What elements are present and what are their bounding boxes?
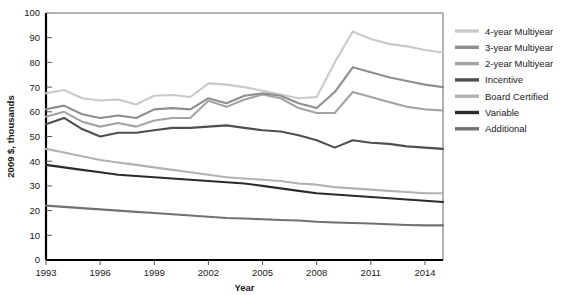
y-tick-label: 20 [29,205,40,216]
y-tick-label: 40 [29,156,40,167]
series-line-2-year-multiyear [46,92,443,127]
x-tick-label: 2005 [252,267,273,278]
line-chart-figure: 0102030405060708090100199319961999200220… [0,0,571,295]
x-tick-label: 2002 [198,267,219,278]
series-line-board-certified [46,149,443,193]
x-tick-label: 1999 [144,267,165,278]
x-tick-label: 2011 [361,267,381,278]
x-tick-label: 2008 [306,267,327,278]
series-line-additional [46,206,443,226]
legend: 4-year Multiyear3-year Multiyear2-year M… [455,26,553,135]
legend-item-variable[interactable]: Variable [455,107,519,118]
y-tick-label: 90 [29,32,40,43]
y-axis-title: 2009 $, thousands [5,95,16,177]
series-line-3-year-multiyear [46,67,443,118]
legend-item-4-year-multiyear[interactable]: 4-year Multiyear [455,26,553,37]
y-tick-label: 80 [29,57,40,68]
y-tick-label: 70 [29,82,40,93]
x-tick-label: 2014 [414,267,435,278]
legend-label: 4-year Multiyear [485,26,553,37]
legend-label: Incentive [485,74,523,85]
y-tick-label: 60 [29,106,40,117]
series-line-variable [46,165,443,202]
data-lines-group [46,32,443,226]
series-line-4-year-multiyear [46,32,443,105]
legend-label: Variable [485,107,519,118]
axes-group: 0102030405060708090100199319961999200220… [5,7,443,293]
legend-item-board-certified[interactable]: Board Certified [455,91,548,102]
legend-item-additional[interactable]: Additional [455,123,527,134]
y-tick-label: 100 [24,7,40,18]
legend-label: 3-year Multiyear [485,42,553,53]
y-tick-label: 10 [29,230,40,241]
legend-label: 2-year Multiyear [485,58,553,69]
series-line-incentive [46,118,443,149]
x-tick-label: 1993 [35,267,56,278]
y-tick-label: 50 [29,131,40,142]
legend-label: Board Certified [485,91,548,102]
legend-label: Additional [485,123,527,134]
legend-item-2-year-multiyear[interactable]: 2-year Multiyear [455,58,553,69]
y-tick-label: 30 [29,180,40,191]
chart-canvas: 0102030405060708090100199319961999200220… [0,0,571,295]
legend-item-incentive[interactable]: Incentive [455,74,523,85]
x-axis-title: Year [234,282,254,293]
x-tick-label: 1996 [90,267,111,278]
legend-item-3-year-multiyear[interactable]: 3-year Multiyear [455,42,553,53]
y-tick-label: 0 [35,254,40,265]
